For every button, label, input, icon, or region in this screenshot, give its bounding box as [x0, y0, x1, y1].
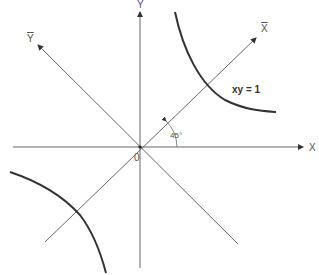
hyperbola-lower-branch	[10, 172, 106, 273]
origin-point	[138, 145, 141, 148]
y-axis-label: Y	[137, 0, 144, 10]
curve-equation-label: xy = 1	[232, 84, 260, 95]
x-axis-label: X	[309, 143, 316, 153]
diagram-canvas	[0, 0, 319, 275]
y-bar-axis-label: Y	[27, 34, 34, 44]
y-bar-axis	[38, 45, 238, 244]
x-bar-axis-label: X	[261, 24, 268, 34]
origin-label: 0	[134, 153, 140, 163]
angle-label: 45°	[170, 131, 182, 141]
